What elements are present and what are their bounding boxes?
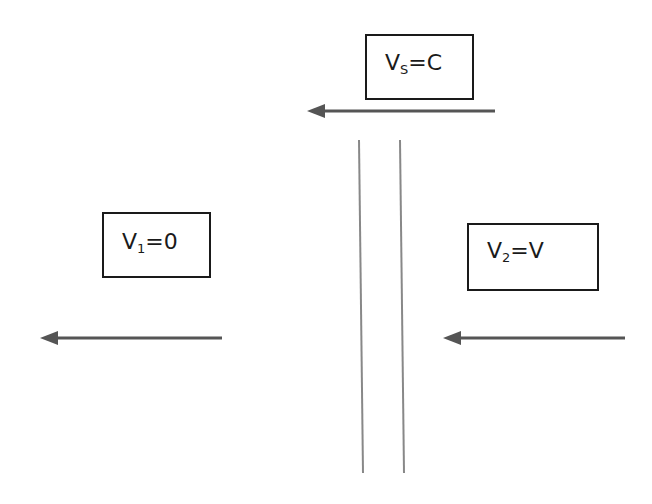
value: =0 [145, 229, 177, 254]
wall-line-left [359, 140, 363, 473]
arrowhead-icon [307, 104, 325, 118]
label-vs: VS=C [385, 50, 442, 77]
arrow-top [307, 104, 495, 118]
arrow-left [40, 331, 222, 345]
value: =V [510, 238, 543, 263]
arrow-right [443, 331, 625, 345]
arrowhead-icon [40, 331, 58, 345]
var: V [122, 229, 137, 254]
wall-line-right [400, 140, 404, 473]
label-v2: V2=V [487, 238, 544, 265]
arrowhead-icon [443, 331, 461, 345]
label-v1: V1=0 [122, 229, 178, 256]
var: V [487, 238, 502, 263]
value: =C [408, 50, 442, 75]
var: V [385, 50, 400, 75]
